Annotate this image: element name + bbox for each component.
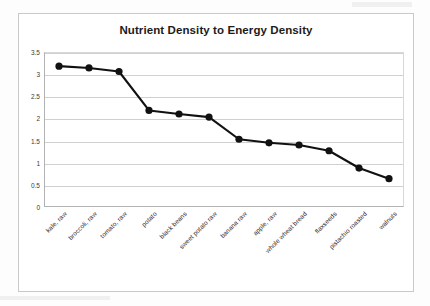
y-tick-label: 3.5 bbox=[14, 49, 40, 56]
line-series bbox=[44, 52, 404, 207]
y-tick-label: 3 bbox=[14, 71, 40, 78]
x-axis-tick-labels: kale, rawbroccoli, rawtomato, rawpotatob… bbox=[44, 208, 404, 292]
y-tick-label: 2.5 bbox=[14, 93, 40, 100]
data-point bbox=[175, 110, 182, 117]
y-tick-label: 1.5 bbox=[14, 137, 40, 144]
data-point bbox=[85, 64, 92, 71]
x-tick-label: black beans bbox=[158, 210, 188, 240]
data-point bbox=[355, 164, 362, 171]
data-point bbox=[145, 107, 152, 114]
x-tick-label: banana raw bbox=[219, 210, 248, 239]
data-point bbox=[55, 63, 62, 70]
y-axis-tick-labels: 00.511.522.533.5 bbox=[12, 52, 40, 207]
y-tick-label: 2 bbox=[14, 115, 40, 122]
chart-title: Nutrient Density to Energy Density bbox=[18, 24, 414, 36]
data-point bbox=[385, 175, 392, 182]
data-point bbox=[205, 114, 212, 121]
x-tick-label: kale, raw bbox=[44, 210, 68, 234]
screenshot-canvas: Nutrient Density to Energy Density 00.51… bbox=[0, 0, 430, 306]
x-tick-label: flaxseeds bbox=[313, 210, 338, 235]
data-point bbox=[115, 68, 122, 75]
y-tick-label: 0.5 bbox=[14, 181, 40, 188]
x-tick-label: walnuts bbox=[377, 210, 398, 231]
series-line bbox=[59, 66, 389, 178]
x-tick-label: apple, raw bbox=[251, 210, 278, 237]
data-point bbox=[265, 139, 272, 146]
data-point bbox=[295, 141, 302, 148]
data-point bbox=[235, 136, 242, 143]
y-tick-label: 0 bbox=[14, 204, 40, 211]
scan-smudge-bottom-left bbox=[0, 296, 110, 300]
scan-smudge-top-right bbox=[352, 2, 412, 7]
x-tick-label: tomato, raw bbox=[99, 210, 128, 239]
data-point bbox=[325, 147, 332, 154]
y-tick-label: 1 bbox=[14, 159, 40, 166]
x-tick-label: potato bbox=[140, 210, 158, 228]
x-tick-label: broccoli, raw bbox=[67, 210, 98, 241]
